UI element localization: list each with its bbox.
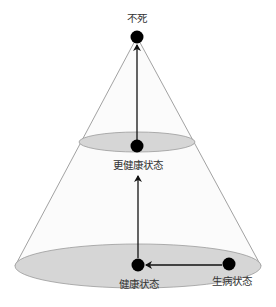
node-healthy xyxy=(132,259,145,272)
cone-diagram xyxy=(0,0,276,307)
node-immortal xyxy=(131,31,144,44)
node-sick xyxy=(223,258,236,271)
label-healthy: 健康状态 xyxy=(119,279,159,290)
label-immortal: 不死 xyxy=(127,13,147,24)
label-healthier: 更健康状态 xyxy=(113,160,163,171)
label-sick: 生病状态 xyxy=(212,276,252,287)
node-healthier xyxy=(131,140,144,153)
